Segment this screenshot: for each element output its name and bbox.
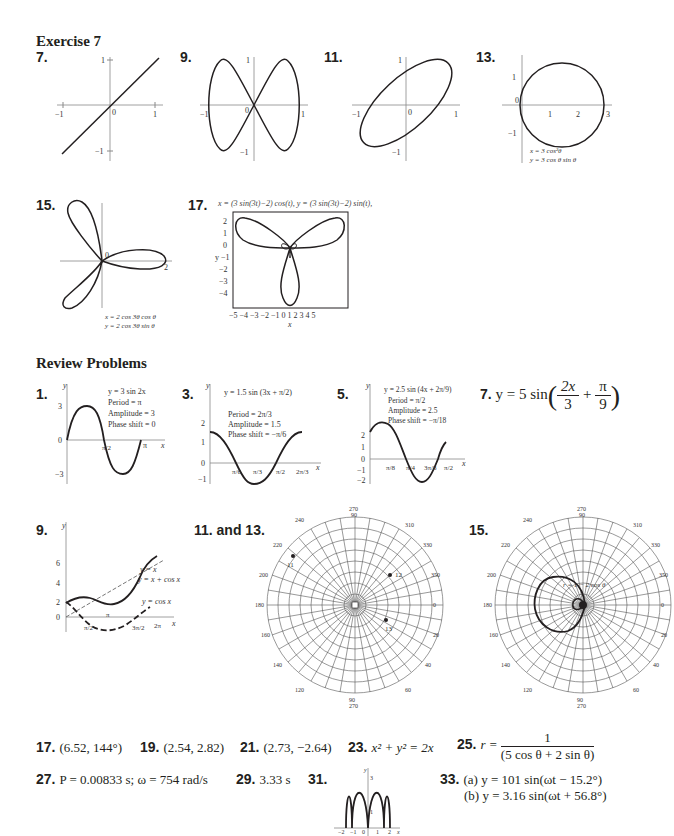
svg-text:0: 0 [58, 436, 62, 445]
svg-text:330: 330 [651, 542, 660, 548]
svg-text:120: 120 [295, 687, 304, 693]
figure-ex15-rose: 02 x = 2 cos 3θ cos θ y = 2 cos 3θ sin θ [60, 198, 180, 328]
svg-text:0: 0 [112, 108, 116, 117]
svg-text:1: 1 [361, 443, 365, 452]
svg-text:0: 0 [105, 251, 109, 260]
svg-text:−1: −1 [352, 110, 361, 119]
svg-text:0: 0 [56, 613, 60, 622]
svg-text:−1: −1 [200, 110, 209, 119]
svg-text:y = 3 cos θ sin θ: y = 3 cos θ sin θ [529, 156, 577, 164]
svg-text:−1: −1 [508, 129, 517, 138]
svg-text:x: x [287, 320, 292, 329]
svg-text:−1: −1 [55, 110, 64, 119]
figure-review15-limacon: r = 1 − 2 cos θ 27090 0180 90270 3103303… [483, 507, 674, 707]
svg-text:π/6: π/6 [232, 468, 241, 476]
svg-text:0: 0 [433, 602, 436, 608]
svg-text:Period = π/2: Period = π/2 [388, 396, 425, 405]
svg-text:−1: −1 [357, 466, 366, 475]
svg-text:x: x [315, 463, 320, 472]
svg-text:Period = 2π/3: Period = 2π/3 [228, 410, 272, 419]
svg-text:x: x [461, 459, 466, 468]
svg-text:3: 3 [58, 402, 62, 411]
exercise-label-13: 13. [476, 49, 495, 65]
svg-text:2: 2 [388, 829, 391, 835]
answer-23: 23.x² + y² = 2x [348, 739, 434, 756]
svg-text:π/3: π/3 [253, 468, 262, 476]
answer-31-label: 31. [308, 771, 331, 788]
review-label-1: 1. [36, 386, 48, 402]
svg-text:2: 2 [223, 217, 227, 226]
svg-text:1: 1 [376, 829, 379, 835]
svg-text:90: 90 [351, 512, 357, 518]
svg-text:0: 0 [661, 602, 664, 608]
svg-text:3: 3 [606, 110, 610, 119]
svg-text:1: 1 [246, 56, 250, 65]
svg-text:−4: −4 [219, 289, 228, 298]
svg-text:1: 1 [301, 110, 305, 119]
svg-text:0: 0 [362, 829, 365, 835]
svg-text:−2: −2 [219, 265, 228, 274]
svg-text:20: 20 [433, 632, 439, 638]
answer-17: 17.(6.52, 144°) [36, 739, 122, 756]
svg-text:y = 2.5 sin (4x + 2π/9): y = 2.5 sin (4x + 2π/9) [384, 385, 452, 394]
svg-text:y: y [61, 521, 66, 530]
figure-ex17-parametric: 210 y −1−2−3−4 −5 −4 −3 −2 −1 0 1 2 3 4 … [215, 210, 355, 340]
figure-review9-sum: y 6420 π/2π3π/22π x y = x y = x + cos x … [54, 522, 184, 632]
svg-text:Phase shift = −π/18: Phase shift = −π/18 [388, 416, 447, 425]
svg-text:π/8: π/8 [386, 464, 395, 472]
svg-text:π/2: π/2 [102, 444, 111, 452]
svg-text:−1: −1 [198, 475, 207, 484]
svg-text:Period = π: Period = π [108, 398, 141, 407]
answer-19: 19.(2.54, 2.82) [140, 739, 224, 756]
svg-text:350: 350 [431, 572, 440, 578]
svg-text:1: 1 [101, 56, 105, 65]
svg-text:60: 60 [405, 687, 411, 693]
svg-text:−3: −3 [55, 470, 64, 479]
figure-review1-sine: y 30−3 π/2πx y = 3 sin 2x Period = π Amp… [55, 384, 175, 484]
svg-text:60: 60 [633, 687, 639, 693]
svg-text:−1: −1 [95, 147, 104, 156]
svg-text:140: 140 [501, 662, 510, 668]
svg-text:π: π [106, 611, 110, 619]
review-answer-7: 7. y = 5 sin(2x3 + π9) [480, 378, 620, 413]
answer-33: 33.(a) y = 101 sin(ωt − 15.2°) (b) y = 3… [440, 771, 607, 804]
svg-text:270: 270 [349, 703, 358, 709]
svg-text:1: 1 [370, 809, 373, 815]
svg-text:4: 4 [56, 579, 60, 588]
svg-text:π/2: π/2 [444, 464, 453, 472]
svg-text:12: 12 [395, 571, 403, 579]
figure-ex13-circle: 0123 1−1 x = 3 cos²θ y = 3 cos θ sin θ [502, 55, 642, 185]
svg-text:310: 310 [405, 522, 414, 528]
figure-review3-sine: y 210−1 π/6π/3π/22π/3 x y = 1.5 sin (3x … [196, 384, 326, 484]
svg-text:140: 140 [273, 662, 282, 668]
svg-text:y = x: y = x [139, 565, 157, 574]
exercise-label-15: 15. [36, 197, 55, 213]
svg-text:0: 0 [408, 108, 412, 117]
svg-text:1: 1 [201, 438, 205, 447]
svg-text:330: 330 [423, 542, 432, 548]
svg-text:−2: −2 [357, 476, 366, 485]
exercise-label-17: 17. [188, 197, 207, 213]
svg-text:0: 0 [361, 455, 365, 464]
svg-text:350: 350 [659, 572, 668, 578]
svg-text:180: 180 [483, 602, 492, 608]
svg-text:90: 90 [579, 512, 585, 518]
section-title-review: Review Problems [36, 355, 147, 372]
svg-text:40: 40 [653, 662, 659, 668]
svg-text:13: 13 [385, 625, 393, 633]
svg-text:−1: −1 [240, 148, 249, 157]
svg-text:−3: −3 [219, 277, 228, 286]
svg-text:310: 310 [633, 522, 642, 528]
svg-text:20: 20 [661, 632, 667, 638]
svg-text:π/2: π/2 [84, 624, 93, 632]
review-label-5: 5. [337, 386, 349, 402]
svg-text:−5 −4 −3 −2 −1 0 1 2 3 4: −5 −4 −3 −2 −1 0 1 2 3 4 5 [229, 311, 316, 320]
svg-text:160: 160 [261, 632, 270, 638]
svg-text:Amplitude = 3: Amplitude = 3 [108, 409, 155, 418]
figure-review5-sine: y 210 −1−2 π/8π/43π/8π/2 x y = 2.5 sin (… [360, 384, 470, 484]
svg-text:x = 2 cos 3θ cos θ: x = 2 cos 3θ cos θ [104, 313, 156, 321]
svg-text:220: 220 [273, 542, 282, 548]
svg-text:π/4: π/4 [406, 464, 415, 472]
svg-text:160: 160 [489, 632, 498, 638]
svg-text:0: 0 [223, 241, 227, 250]
